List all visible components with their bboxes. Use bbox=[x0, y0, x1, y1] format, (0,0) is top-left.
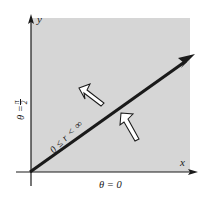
fraction-denominator: 2 bbox=[20, 99, 29, 105]
theta-half-pi-symbol: θ = bbox=[15, 105, 26, 120]
fraction-numerator: π bbox=[13, 99, 21, 105]
axis-label-x: x bbox=[180, 157, 185, 168]
theta-half-pi-label: θ =π2 bbox=[13, 99, 30, 120]
axis-label-y: y bbox=[37, 14, 42, 25]
polar-ray-figure: y x θ = 0 θ =π2 0 ≤ r < ∞ bbox=[0, 0, 204, 202]
theta-half-pi-fraction: π2 bbox=[13, 99, 30, 105]
figure-canvas bbox=[0, 0, 204, 202]
theta-zero-label: θ = 0 bbox=[99, 180, 122, 191]
